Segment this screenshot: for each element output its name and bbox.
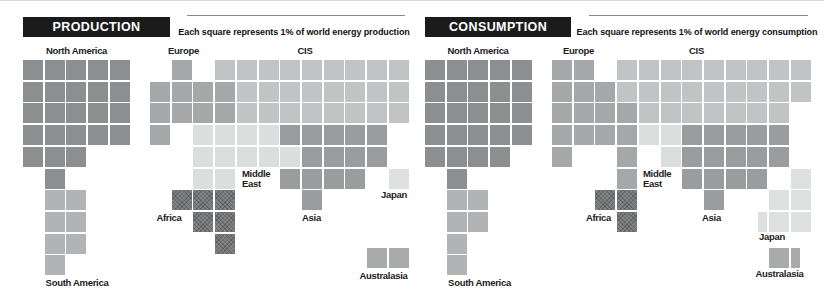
cis-square: [747, 60, 767, 80]
north-america-square: [468, 82, 488, 102]
south-america-label: South America: [448, 278, 511, 289]
north-america-label: North America: [447, 46, 508, 57]
consumption-header-title: CONSUMPTION: [449, 20, 547, 34]
cis-square: [682, 60, 702, 80]
energy-cartogram: PRODUCTION Each square represents 1% of …: [0, 0, 824, 297]
asia-square: [769, 147, 789, 167]
asia-square: [704, 125, 724, 145]
cis-square: [747, 103, 767, 123]
asia-square: [682, 169, 702, 189]
cis-square: [617, 60, 637, 80]
cis-square: [639, 60, 659, 80]
cis-square: [704, 103, 724, 123]
europe-square: [595, 103, 615, 123]
africa-label: Africa: [586, 213, 611, 224]
north-america-square: [468, 103, 488, 123]
japan-square: [791, 169, 811, 189]
asia-square: [726, 125, 746, 145]
north-america-square: [425, 103, 445, 123]
north-america-square: [447, 60, 467, 80]
north-america-square: [490, 82, 510, 102]
north-america-square: [425, 147, 445, 167]
south-america-square: [447, 234, 467, 254]
europe-square: [617, 103, 637, 123]
north-america-square: [512, 82, 532, 102]
asia-square: [682, 125, 702, 145]
australasia-label: Australasia: [756, 269, 804, 280]
north-america-square: [425, 82, 445, 102]
north-america-square: [425, 125, 445, 145]
asia-square: [682, 147, 702, 167]
cis-square: [726, 60, 746, 80]
north-america-square: [490, 147, 510, 167]
cis-square: [791, 82, 811, 102]
cis-square: [682, 103, 702, 123]
japan-square: [769, 212, 789, 232]
europe-square: [574, 82, 594, 102]
south-america-square: [447, 190, 467, 210]
cis-square: [682, 82, 702, 102]
cis-square: [726, 103, 746, 123]
africa-square: [617, 212, 637, 232]
south-america-square: [468, 190, 488, 210]
cis-square: [639, 103, 659, 123]
europe-square: [574, 125, 594, 145]
north-america-square: [490, 125, 510, 145]
africa-square: [617, 190, 637, 210]
asia-label: Asia: [702, 213, 721, 224]
south-america-square: [468, 212, 488, 232]
europe-square: [595, 125, 615, 145]
asia-square: [769, 125, 789, 145]
cis-square: [661, 60, 681, 80]
europe-square: [574, 103, 594, 123]
north-america-square: [468, 125, 488, 145]
cis-square: [769, 60, 789, 80]
europe-square: [617, 147, 637, 167]
cis-square: [661, 103, 681, 123]
africa-square: [595, 190, 615, 210]
north-america-square: [512, 125, 532, 145]
europe-square: [552, 125, 572, 145]
north-america-square: [490, 60, 510, 80]
middle-east-label: Middle East: [643, 169, 681, 191]
asia-square: [747, 125, 767, 145]
cis-square: [617, 82, 637, 102]
south-america-square: [447, 255, 467, 275]
asia-square: [747, 169, 767, 189]
asia-square: [747, 147, 767, 167]
asia-square: [726, 147, 746, 167]
south-america-square: [447, 212, 467, 232]
consumption-tagline: Each square represents 1% of world energ…: [577, 27, 818, 37]
middle-east-square: [639, 125, 659, 145]
australasia-square: [791, 248, 801, 268]
north-america-square: [447, 169, 467, 189]
consumption-rule-line: [589, 15, 808, 16]
cis-square: [791, 60, 811, 80]
north-america-square: [425, 60, 445, 80]
cis-label: CIS: [689, 46, 704, 57]
north-america-square: [512, 60, 532, 80]
europe-square: [617, 125, 637, 145]
europe-square: [552, 82, 572, 102]
cis-square: [769, 103, 789, 123]
cis-square: [747, 82, 767, 102]
asia-square: [726, 169, 746, 189]
japan-square: [758, 212, 768, 232]
europe-square: [552, 60, 572, 80]
europe-square: [595, 82, 615, 102]
europe-square: [552, 147, 572, 167]
consumption-header-bar: CONSUMPTION: [425, 17, 571, 37]
europe-square: [552, 103, 572, 123]
consumption-panel: CONSUMPTION Each square represents 1% of…: [0, 0, 824, 297]
cis-square: [661, 82, 681, 102]
japan-square: [769, 190, 789, 210]
north-america-square: [468, 147, 488, 167]
japan-label: Japan: [759, 232, 785, 243]
asia-square: [704, 169, 724, 189]
japan-square: [791, 190, 811, 210]
north-america-square: [512, 103, 532, 123]
asia-square: [704, 147, 724, 167]
japan-square: [791, 212, 811, 232]
north-america-square: [447, 147, 467, 167]
cis-square: [769, 82, 789, 102]
